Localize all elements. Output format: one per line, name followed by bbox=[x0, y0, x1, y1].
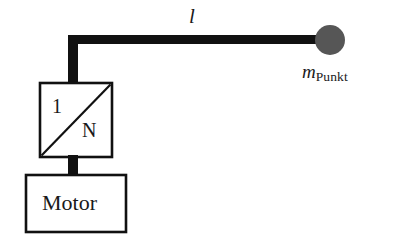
point-mass-label: mPunkt bbox=[302, 62, 348, 83]
point-mass-subscript: Punkt bbox=[316, 69, 348, 84]
gearbox-output-ratio-label: N bbox=[82, 120, 96, 140]
gearbox-input-ratio-label: 1 bbox=[52, 96, 62, 116]
vertical-output-shaft bbox=[68, 35, 78, 85]
point-mass-circle bbox=[315, 25, 345, 55]
arm-length-label: l bbox=[189, 6, 195, 27]
motor-label: Motor bbox=[42, 192, 97, 214]
mechanical-diagram: l mPunkt 1 N Motor bbox=[0, 0, 394, 238]
motor-gearbox-shaft bbox=[68, 155, 78, 176]
point-mass-symbol: m bbox=[302, 61, 316, 82]
horizontal-arm bbox=[68, 35, 326, 44]
